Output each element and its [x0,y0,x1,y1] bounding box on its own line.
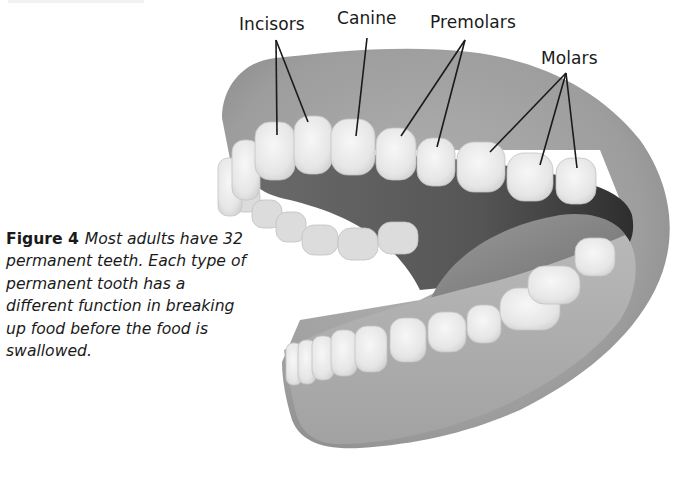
caption-text: Most adults have 32 permanent teeth. Eac… [6,230,246,360]
figure: Incisors Canine Premolars Molars Figure … [0,0,690,481]
label-premolars: Premolars [430,12,516,32]
label-canine: Canine [337,8,397,28]
label-molars: Molars [541,48,598,68]
incisors-leader-line-1 [276,40,277,135]
label-incisors: Incisors [239,14,305,34]
figure-number: Figure 4 [6,230,79,248]
figure-caption: Figure 4Most adults have 32 permanent te… [6,228,246,362]
